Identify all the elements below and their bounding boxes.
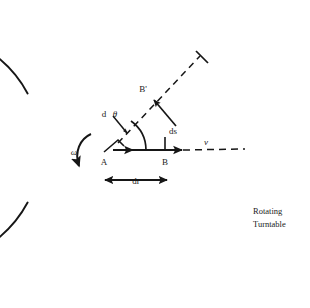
diagram-canvas: A B B' d θ ds dr v ω Rotating Turntable <box>0 0 310 308</box>
ds-arrow <box>154 100 176 126</box>
label-velocity-v: v <box>204 137 208 147</box>
label-point-b-prime: B' <box>139 84 147 94</box>
turntable-rim-arc <box>0 32 28 264</box>
velocity-dashed-extension <box>183 149 245 150</box>
label-ds: ds <box>169 126 178 136</box>
rim-tick-mark <box>196 51 208 63</box>
label-point-b: B <box>162 157 168 167</box>
label-theta-symbol: θ <box>113 109 118 119</box>
caption-line-rotating: Rotating <box>253 206 283 216</box>
caption-line-turntable: Turntable <box>253 219 286 229</box>
rotating-turntable-figure: A B B' d θ ds dr v ω Rotating Turntable <box>0 0 310 308</box>
label-d-differential: d <box>102 109 107 119</box>
label-dr: dr <box>132 176 140 186</box>
label-omega: ω <box>71 147 77 157</box>
label-point-a: A <box>101 157 108 167</box>
angle-arc-d-theta <box>131 121 146 150</box>
rotated-radius-dashed-ray <box>118 56 200 143</box>
omega-curved-arrow <box>77 134 91 166</box>
